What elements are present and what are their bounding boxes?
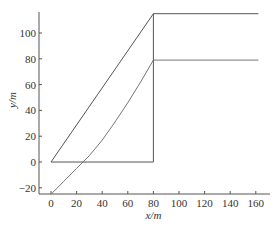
y-tick-label: 80 — [25, 53, 37, 65]
x-tick-label: 40 — [97, 197, 109, 209]
x-tick-label: 60 — [122, 197, 134, 209]
x-tick-label: 0 — [48, 197, 54, 209]
x-tick-label: 100 — [171, 197, 188, 209]
x-tick-label: 120 — [196, 197, 213, 209]
y-tick-label: 100 — [20, 27, 37, 39]
x-tick-label: 140 — [222, 197, 239, 209]
y-tick-label: 0 — [31, 156, 37, 168]
y-tick-label: 40 — [25, 104, 37, 116]
x-tick-label: 80 — [148, 197, 160, 209]
y-tick-label: −20 — [19, 182, 37, 194]
x-tick-label: 20 — [71, 197, 83, 209]
y-axis-label: y/m — [6, 92, 18, 109]
x-axis-label: x/m — [144, 209, 161, 221]
chart: −20020406080100020406080100120140160x/my… — [0, 0, 275, 229]
y-tick-label: 20 — [25, 130, 37, 142]
x-tick-label: 160 — [248, 197, 265, 209]
series-line-1 — [51, 14, 258, 162]
y-tick-label: 60 — [25, 79, 37, 91]
series-line-2 — [51, 60, 258, 194]
